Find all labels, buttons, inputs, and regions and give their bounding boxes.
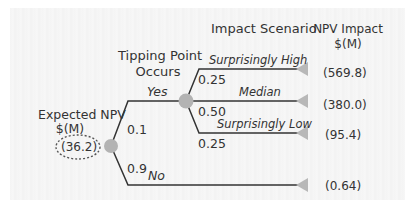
expected-npv-title: Expected NPV xyxy=(38,108,102,122)
npv-impact-header: NPV Impact $(M) xyxy=(308,22,388,52)
yes-probability: 0.1 xyxy=(127,123,147,137)
expected-npv-unit: $(M) xyxy=(38,122,102,136)
terminal-no-icon xyxy=(296,178,308,192)
expected-npv-value: (36.2) xyxy=(61,140,97,154)
scenario-low-probability: 0.25 xyxy=(198,137,226,151)
terminal-median-icon xyxy=(296,94,308,108)
scenario-low-label: Surprisingly Low xyxy=(217,117,312,131)
scenario-high-label: Surprisingly High xyxy=(209,53,307,67)
scenario-high-probability: 0.25 xyxy=(198,73,226,87)
scenario-median-label: Median xyxy=(239,85,281,99)
no-label: No xyxy=(148,169,165,183)
tipping-point-subtitle: Occurs xyxy=(118,64,198,80)
expected-npv-header: Expected NPV $(M) xyxy=(38,108,102,136)
npv-impact-unit: $(M) xyxy=(308,37,388,52)
yes-label: Yes xyxy=(147,85,167,99)
tipping-chance-node-icon xyxy=(179,94,194,109)
tipping-point-header: Tipping Point Occurs xyxy=(118,48,198,80)
tipping-point-title: Tipping Point xyxy=(118,48,198,64)
npv-low-value: (95.4) xyxy=(325,128,361,142)
npv-high-value: (569.8) xyxy=(323,66,367,80)
npv-median-value: (380.0) xyxy=(323,98,367,112)
npv-no-value: (0.64) xyxy=(325,179,361,193)
impact-scenario-header: Impact Scenario xyxy=(211,22,317,36)
no-probability: 0.9 xyxy=(127,162,147,176)
root-chance-node-icon xyxy=(104,139,118,153)
npv-impact-title: NPV Impact xyxy=(308,22,388,37)
